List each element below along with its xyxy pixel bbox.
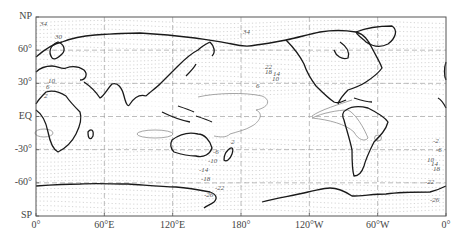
contour-value-label: -26 bbox=[204, 191, 213, 199]
longitude-label: 0° bbox=[421, 219, 463, 230]
longitude-label: 60°E bbox=[79, 219, 129, 230]
longitude-label: 120°E bbox=[148, 219, 198, 230]
contour-value-label: -22 bbox=[425, 178, 434, 186]
contour-value-label: -14 bbox=[199, 166, 208, 174]
contour-value-label: 34 bbox=[40, 20, 47, 28]
contour-value-label: -22 bbox=[215, 184, 224, 192]
contour-value-label: 6 bbox=[46, 83, 50, 91]
contour-value-label: 2 bbox=[231, 138, 235, 146]
longitude-label: 120°W bbox=[284, 219, 334, 230]
contour-value-label: 10 bbox=[272, 75, 279, 83]
contour-value-label: -2 bbox=[433, 137, 439, 145]
contour-value-label: 30 bbox=[55, 33, 62, 41]
latitude-label: -30° bbox=[0, 143, 32, 154]
contour-value-label: 18 bbox=[265, 68, 272, 76]
contour-value-label: -10 bbox=[208, 157, 217, 165]
longitude-label: 180° bbox=[216, 219, 266, 230]
latitude-label: NP bbox=[0, 10, 32, 21]
contour-value-label: 2 bbox=[44, 92, 48, 100]
latitude-label: 30° bbox=[0, 76, 32, 87]
contour-value-label: 34 bbox=[243, 28, 250, 36]
latitude-label: -60° bbox=[0, 176, 32, 187]
contour-value-label: -6 bbox=[436, 146, 442, 154]
map-figure: NP60°30°EQ-30°-60°SP 0°60°E120°E180°120°… bbox=[0, 0, 463, 241]
longitude-label: 0° bbox=[11, 219, 61, 230]
contour-value-label: -26 bbox=[430, 196, 439, 204]
graticule bbox=[36, 17, 446, 216]
contour-value-label: 6 bbox=[256, 82, 260, 90]
contour-value-label: 18 bbox=[433, 165, 440, 173]
latitude-label: EQ bbox=[0, 110, 32, 121]
longitude-label: 60°W bbox=[353, 219, 403, 230]
latitude-label: 60° bbox=[0, 43, 32, 54]
map-canvas bbox=[0, 0, 463, 241]
contour-value-label: -18 bbox=[201, 175, 210, 183]
contour-value-label: -6 bbox=[213, 148, 219, 156]
